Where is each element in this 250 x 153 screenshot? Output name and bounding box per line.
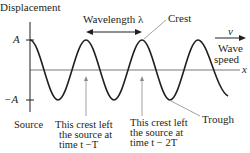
y-axis-label: Displacement xyxy=(0,2,60,13)
x-axis-label: x xyxy=(242,64,247,75)
crest-label: Crest xyxy=(168,13,191,24)
trough-leader xyxy=(171,101,200,116)
crest1-line3: time t −T xyxy=(59,140,98,150)
trough-label: Trough xyxy=(202,114,234,125)
crest-leader xyxy=(144,20,166,39)
speed-symbol: v xyxy=(228,26,233,37)
crest2-pointer-head xyxy=(140,76,144,81)
amplitude-label: A xyxy=(13,34,20,45)
arrow-right-head xyxy=(135,29,142,35)
arrow-left-head xyxy=(86,29,93,35)
speed-label-speed: speed xyxy=(214,54,239,65)
neg-amplitude-label: −A xyxy=(4,94,18,105)
speed-arrow-head xyxy=(239,35,246,41)
wavelength-label: Wavelength λ xyxy=(83,14,143,25)
crest1-pointer-head xyxy=(84,76,88,81)
source-label: Source xyxy=(14,120,43,130)
crest2-line3: time t − 2T xyxy=(130,138,177,148)
